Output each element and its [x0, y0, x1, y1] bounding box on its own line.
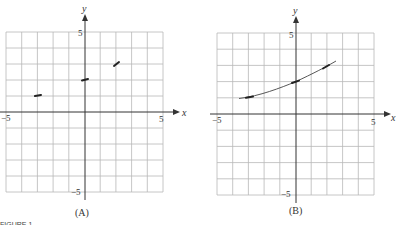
graph-a-segment-1 — [35, 95, 41, 96]
graph-a-caption: (A) — [75, 207, 89, 219]
graph-b-y-max-tick: 5 — [289, 30, 294, 40]
graph-a-x-label: x — [181, 107, 187, 118]
graph-b-segment-1 — [246, 97, 253, 98]
graph-b-segment-2 — [292, 81, 299, 83]
graph-a-x-min-tick: −5 — [1, 113, 11, 123]
graph-b-x-max-tick: 5 — [371, 117, 376, 127]
graph-a-y-max-tick: 5 — [78, 28, 83, 38]
graph-a-y-min-tick: −5 — [71, 187, 81, 197]
figure-canvas: x y −5 5 5 −5 (A) — [0, 0, 397, 225]
graph-b-y-arrow-icon — [293, 16, 299, 23]
graph-b-caption: (B) — [289, 205, 302, 217]
graph-a: x y −5 5 5 −5 (A) — [0, 3, 187, 219]
graph-b-curve — [239, 61, 336, 99]
figure-label: FIGURE 1 — [0, 221, 32, 225]
graph-a-x-max-tick: 5 — [159, 114, 164, 124]
graph-a-y-arrow-icon — [82, 14, 88, 21]
graph-a-x-arrow-icon — [173, 109, 180, 115]
graph-b-y-label: y — [292, 5, 298, 16]
graph-b-x-arrow-icon — [384, 111, 391, 117]
graph-b-x-min-tick: −5 — [212, 115, 222, 125]
graph-b-x-label: x — [390, 112, 396, 123]
graph-b: x y −5 5 5 −5 (B) — [210, 5, 396, 217]
graph-b-y-min-tick: −5 — [281, 189, 291, 199]
graph-a-y-label: y — [81, 3, 87, 14]
